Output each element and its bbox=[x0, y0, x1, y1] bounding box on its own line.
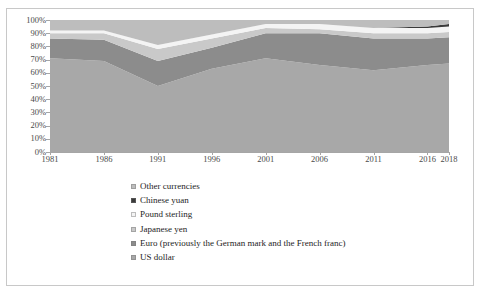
legend-item[interactable]: US dollar bbox=[131, 250, 461, 264]
y-axis-tick-label: 70% bbox=[4, 55, 46, 64]
legend-item-label: Euro (previously the German mark and the… bbox=[140, 239, 345, 248]
legend-item[interactable]: Chinese yuan bbox=[131, 193, 461, 207]
y-axis-tick-label: 100% bbox=[4, 16, 46, 25]
legend-item-label: Japanese yen bbox=[140, 225, 187, 234]
legend-swatch-icon bbox=[131, 241, 136, 246]
x-axis-tick-label: 1996 bbox=[203, 155, 220, 164]
y-axis-tick-label: 50% bbox=[4, 82, 46, 91]
area-series-0 bbox=[50, 58, 449, 152]
chart-legend: Other currenciesChinese yuanPound sterli… bbox=[131, 179, 461, 265]
x-axis-tick-label: 1981 bbox=[42, 155, 59, 164]
y-axis-tick-label: 40% bbox=[4, 95, 46, 104]
y-axis-tick-label: 80% bbox=[4, 42, 46, 51]
legend-swatch-icon bbox=[131, 212, 136, 217]
legend-item[interactable]: Euro (previously the German mark and the… bbox=[131, 236, 461, 250]
x-axis-labels: 198119861991199620012006201120162018 bbox=[50, 155, 450, 169]
y-axis-tick-label: 60% bbox=[4, 68, 46, 77]
y-axis-labels: 0%10%20%30%40%50%60%70%80%90%100% bbox=[2, 20, 46, 153]
legend-item[interactable]: Pound sterling bbox=[131, 208, 461, 222]
figure-container: 0%10%20%30%40%50%60%70%80%90%100% 198119… bbox=[0, 0, 481, 295]
y-axis-tick-label: 10% bbox=[4, 134, 46, 143]
x-axis-tick-label: 2006 bbox=[311, 155, 328, 164]
x-axis-tick-label: 2001 bbox=[257, 155, 274, 164]
legend-item-label: Pound sterling bbox=[140, 210, 192, 219]
x-axis-tick-label: 1991 bbox=[149, 155, 166, 164]
legend-swatch-icon bbox=[131, 255, 136, 260]
y-axis-tick-label: 0% bbox=[4, 148, 46, 157]
y-axis-tick-label: 20% bbox=[4, 121, 46, 130]
legend-swatch-icon bbox=[131, 184, 136, 189]
legend-item[interactable]: Japanese yen bbox=[131, 222, 461, 236]
plot-area bbox=[50, 20, 449, 152]
legend-item-label: Chinese yuan bbox=[140, 196, 189, 205]
legend-item-label: Other currencies bbox=[140, 182, 200, 191]
x-axis-tick-label: 1986 bbox=[95, 155, 112, 164]
y-axis-tick-label: 30% bbox=[4, 108, 46, 117]
stacked-area-series bbox=[50, 20, 449, 152]
x-axis-tick-label: 2016 bbox=[419, 155, 436, 164]
x-axis-tick-label: 2018 bbox=[441, 155, 458, 164]
x-axis-tick-label: 2011 bbox=[365, 155, 382, 164]
legend-item[interactable]: Other currencies bbox=[131, 179, 461, 193]
y-axis-tick-label: 90% bbox=[4, 29, 46, 38]
legend-swatch-icon bbox=[131, 198, 136, 203]
legend-swatch-icon bbox=[131, 227, 136, 232]
legend-item-label: US dollar bbox=[140, 253, 175, 262]
